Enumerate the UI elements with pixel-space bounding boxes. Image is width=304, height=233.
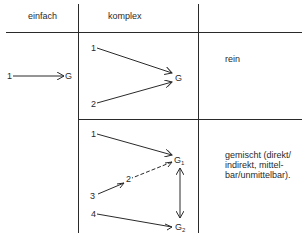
complex-pure-source-1: 1	[91, 43, 96, 53]
mixed-source-3: 3	[90, 191, 95, 201]
complex-pure-arrow-1	[97, 48, 172, 73]
mixed-source-1: 1	[91, 129, 96, 139]
complex-pure-arrow-2	[97, 82, 172, 103]
header-komplex: komplex	[108, 11, 142, 21]
complex-pure-target: G	[175, 73, 182, 83]
mixed-source-4: 4	[91, 209, 96, 219]
relationship-diagram: einfach komplex 1 G 1 2 G rein 1 G1 2 3 …	[0, 0, 304, 233]
mixed-arrow-1	[97, 134, 172, 155]
description-gemischt: gemischt (direkt/ indirekt, mittel- bar/…	[225, 150, 291, 180]
mixed-arrow-4	[97, 214, 172, 227]
description-line-2: indirekt, mittel-	[225, 160, 291, 170]
header-einfach: einfach	[28, 11, 57, 21]
mixed-target-g1: G1	[174, 155, 185, 166]
mixed-target-g2: G2	[175, 222, 186, 233]
complex-pure-source-2: 2	[91, 99, 96, 109]
mixed-arrow-to-3	[98, 183, 124, 194]
description-line-1: gemischt (direkt/	[225, 150, 291, 160]
simple-source-label: 1	[7, 71, 12, 81]
arrowhead-g2	[165, 224, 172, 230]
simple-target-label: G	[65, 71, 72, 81]
description-rein: rein	[225, 54, 240, 64]
mixed-intermediate-2: 2	[126, 174, 131, 184]
mixed-dashed-arrow	[132, 162, 172, 178]
description-line-3: bar/unmittelbar).	[225, 170, 291, 180]
